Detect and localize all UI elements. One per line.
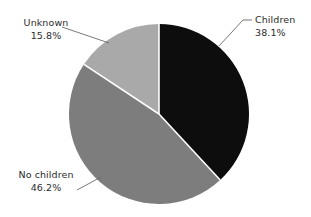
pie-label-no-children-name: No children [6, 169, 86, 182]
pie-label-unknown: Unknown 15.8% [14, 17, 78, 42]
pie-label-unknown-name: Unknown [14, 17, 78, 30]
pie-label-no-children-value: 46.2% [6, 182, 86, 195]
leader-line-children [219, 20, 252, 46]
pie-label-no-children: No children 46.2% [6, 169, 86, 194]
pie-chart-figure: Children 38.1% Unknown 15.8% No children… [0, 0, 311, 217]
pie-label-children-name: Children [255, 14, 296, 27]
pie-label-children: Children 38.1% [255, 14, 296, 39]
pie-label-children-value: 38.1% [255, 27, 296, 40]
pie-label-unknown-value: 15.8% [14, 30, 78, 43]
